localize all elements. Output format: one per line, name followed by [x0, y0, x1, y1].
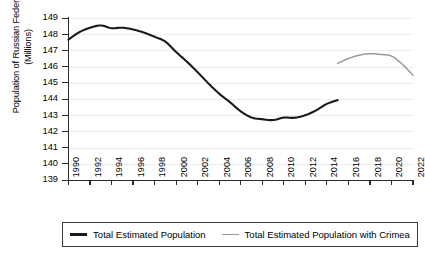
series-line-total-estimated-population-with-crimea [338, 54, 413, 76]
series-line-total-estimated-population [69, 25, 338, 120]
legend-item-total-estimated-population: Total Estimated Population [70, 230, 205, 240]
legend-label: Total Estimated Population [93, 230, 205, 240]
legend-swatch-black-line [70, 233, 87, 235]
chart-legend: Total Estimated Population Total Estimat… [62, 222, 418, 247]
legend-swatch-gray-line [222, 234, 239, 236]
legend-item-total-estimated-population-with-crimea: Total Estimated Population with Crimea [222, 230, 410, 240]
series-lines [0, 0, 425, 258]
legend-label: Total Estimated Population with Crimea [245, 230, 410, 240]
population-line-chart: Population of Russian Federation (Millio… [0, 0, 425, 258]
